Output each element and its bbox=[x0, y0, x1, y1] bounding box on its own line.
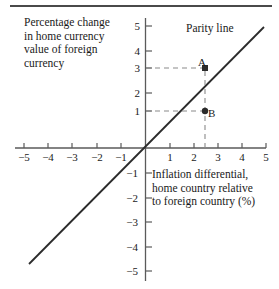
x-tick-label-neg2: −2 bbox=[87, 152, 107, 163]
x-tick-label-neg3: −3 bbox=[62, 152, 82, 163]
x-tick-label-neg1: −1 bbox=[111, 152, 131, 163]
y-axis-label-line-4: currency bbox=[24, 57, 110, 71]
x-tick-label-2: 2 bbox=[184, 152, 204, 163]
x-axis-label-line-1: Inflation differential, bbox=[152, 168, 255, 182]
y-tick-label-1: 1 bbox=[120, 106, 140, 117]
x-tick-label-4: 4 bbox=[232, 152, 252, 163]
y-axis-label-line-2: in home currency bbox=[24, 30, 110, 44]
parity-line-label: Parity line bbox=[186, 22, 234, 35]
x-tick-label-neg5: −5 bbox=[14, 152, 34, 163]
data-point-a-label: A bbox=[198, 57, 206, 68]
x-tick-label-1: 1 bbox=[160, 152, 180, 163]
x-tick-label-neg4: −4 bbox=[38, 152, 58, 163]
y-tick-label-neg3: −3 bbox=[118, 217, 138, 228]
y-tick-label-3: 3 bbox=[120, 63, 140, 74]
y-tick-label-neg2: −2 bbox=[118, 193, 138, 204]
x-axis-label-line-3: to foreign country (%) bbox=[152, 195, 255, 209]
y-tick-label-neg1: −1 bbox=[118, 168, 138, 179]
chart-figure: −5 −4 −3 −2 −1 1 2 3 4 5 5 4 3 2 1 −1 −2… bbox=[0, 0, 279, 289]
y-axis-label-line-3: value of foreign bbox=[24, 43, 110, 57]
y-axis-label: Percentage change in home currency value… bbox=[24, 16, 110, 70]
y-tick-label-2: 2 bbox=[120, 88, 140, 99]
y-tick-label-neg5: −5 bbox=[118, 266, 138, 277]
x-tick-label-3: 3 bbox=[208, 152, 228, 163]
y-tick-label-4: 4 bbox=[120, 46, 140, 57]
y-tick-label-neg4: −4 bbox=[118, 242, 138, 253]
x-axis-label: Inflation differential, home country rel… bbox=[152, 168, 255, 209]
data-point-b-label: B bbox=[208, 108, 215, 119]
x-tick-label-5: 5 bbox=[256, 152, 276, 163]
y-tick-label-5: 5 bbox=[120, 21, 140, 32]
x-axis-label-line-2: home country relative bbox=[152, 182, 255, 196]
y-axis-label-line-1: Percentage change bbox=[24, 16, 110, 30]
